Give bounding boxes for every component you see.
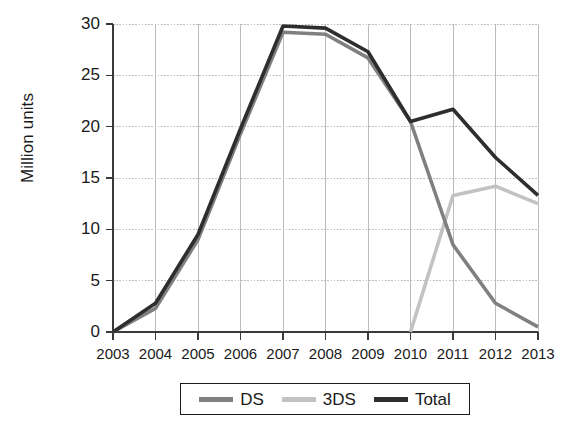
- legend-item-ds[interactable]: DS: [190, 391, 273, 408]
- legend-swatch-icon: [282, 397, 316, 402]
- gridlines: [113, 24, 538, 332]
- line-chart: Million units 051015202530 2003200420052…: [0, 0, 572, 435]
- legend-item-3ds[interactable]: 3DS: [273, 391, 365, 408]
- legend-label: Total: [415, 391, 451, 408]
- legend-swatch-icon: [199, 397, 233, 402]
- series-line-3ds: [411, 186, 539, 332]
- legend-swatch-icon: [374, 397, 408, 402]
- plot-area: [0, 0, 572, 435]
- axis-ticks: [106, 24, 538, 340]
- legend-item-total[interactable]: Total: [365, 391, 460, 408]
- legend-label: 3DS: [323, 391, 356, 408]
- legend: DS3DSTotal: [180, 383, 470, 415]
- legend-label: DS: [240, 391, 264, 408]
